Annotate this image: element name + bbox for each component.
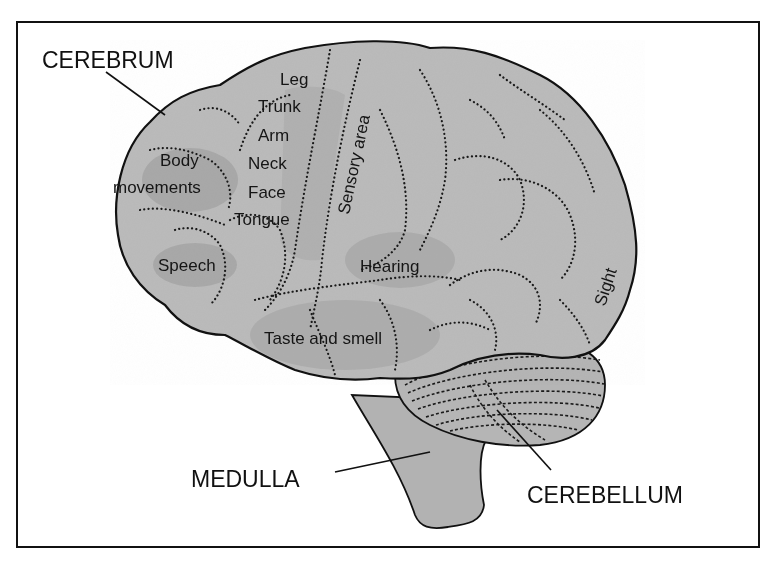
- region-label-movements: movements: [113, 178, 201, 197]
- region-label-tongue: Tongue: [234, 210, 290, 229]
- region-label-body: Body: [160, 151, 199, 170]
- region-label-hearing: Hearing: [360, 257, 420, 276]
- region-label-neck: Neck: [248, 154, 287, 173]
- cerebellum-label: CEREBELLUM: [527, 482, 683, 508]
- medulla-label: MEDULLA: [191, 466, 300, 492]
- brain-diagram: CEREBRUM MEDULLA CEREBELLUM Leg Trunk Ar…: [0, 0, 771, 569]
- region-label-arm: Arm: [258, 126, 289, 145]
- region-label-taste-smell: Taste and smell: [264, 329, 382, 348]
- region-label-trunk: Trunk: [258, 97, 301, 116]
- cerebrum-label: CEREBRUM: [42, 47, 174, 73]
- region-label-face: Face: [248, 183, 286, 202]
- region-label-leg: Leg: [280, 70, 308, 89]
- region-label-speech: Speech: [158, 256, 216, 275]
